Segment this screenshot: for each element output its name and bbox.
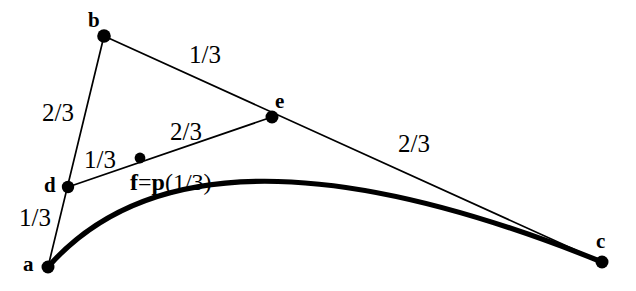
point-label-e: e [275,91,284,112]
ratio-label-de-left: 1/3 [84,147,116,172]
point-label-d: d [44,175,56,196]
ratio-label-bc-right: 2/3 [398,131,430,156]
ratio-label-de-right: 2/3 [170,119,202,144]
point-d [62,181,74,193]
point-label-f-bold-p: p [152,169,165,195]
ratio-label-ab-lower: 1/3 [19,205,51,230]
construction-points [42,29,609,273]
point-label-c: c [596,231,605,252]
ratio-label-ab-upper: 2/3 [42,100,74,125]
point-label-f: f=p(1/3) [130,170,212,194]
point-c [596,256,609,269]
point-label-b: b [88,10,100,31]
ratio-label-bc-left: 1/3 [189,42,221,67]
point-a [42,261,55,274]
point-label-f-equals: = [138,169,152,195]
point-label-f-bold-f: f [130,169,138,195]
point-label-a: a [23,254,34,275]
point-label-f-argument: (1/3) [165,169,212,195]
point-f [135,153,146,164]
bezier-decasteljau-figure: a b c d e f=p(1/3) 2/3 1/3 1/3 2/3 1/3 2… [0,0,636,291]
